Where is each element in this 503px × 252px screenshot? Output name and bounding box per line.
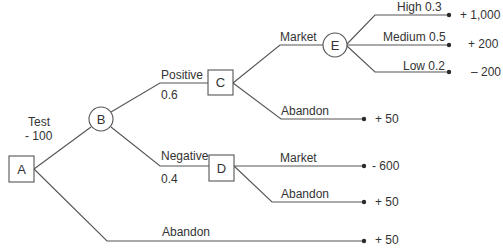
node-label-d: D: [209, 162, 234, 175]
label-d-market: Market: [280, 152, 317, 164]
terminal-dot-c-abandon: [362, 117, 366, 121]
node-label-c: C: [208, 76, 233, 89]
edge-b-positive: [111, 83, 208, 112]
label-c-market: Market: [280, 31, 317, 43]
label-test: Test: [28, 116, 50, 128]
terminal-dot-low: [447, 70, 451, 74]
terminal-dot-d-market: [362, 164, 366, 168]
payoff-e-high: + 1,000: [460, 9, 500, 21]
edge-c-market: [233, 45, 323, 83]
label-negative-probability: 0.4: [161, 173, 178, 185]
payoff-e-low: – 200: [471, 66, 501, 78]
payoff-c-abandon: + 50: [375, 113, 399, 125]
node-label-a: A: [9, 163, 34, 176]
label-e-medium: Medium 0.5: [383, 31, 446, 43]
label-c-abandon: Abandon: [281, 105, 329, 117]
payoff-d-abandon: + 50: [375, 196, 399, 208]
label-test-cost: - 100: [25, 130, 52, 142]
payoff-a-abandon: + 50: [375, 234, 399, 246]
label-positive: Positive: [161, 69, 203, 81]
label-e-low: Low 0.2: [403, 60, 445, 72]
terminal-dot-a-abandon: [362, 239, 366, 243]
node-label-b: B: [89, 113, 113, 126]
decision-tree-diagram: A B C D E Test - 100 Positive 0.6 Negati…: [0, 0, 503, 252]
label-negative: Negative: [161, 150, 208, 162]
label-e-high: High 0.3: [397, 1, 442, 13]
label-d-abandon: Abandon: [281, 188, 329, 200]
terminal-dot-d-abandon: [362, 200, 366, 204]
terminal-dot-high: [447, 13, 451, 17]
label-a-abandon: Abandon: [162, 226, 210, 238]
payoff-e-medium: + 200: [468, 38, 498, 50]
label-positive-probability: 0.6: [161, 89, 178, 101]
payoff-d-market: - 600: [372, 160, 399, 172]
terminal-dot-medium: [447, 43, 451, 47]
node-label-e: E: [323, 39, 347, 52]
